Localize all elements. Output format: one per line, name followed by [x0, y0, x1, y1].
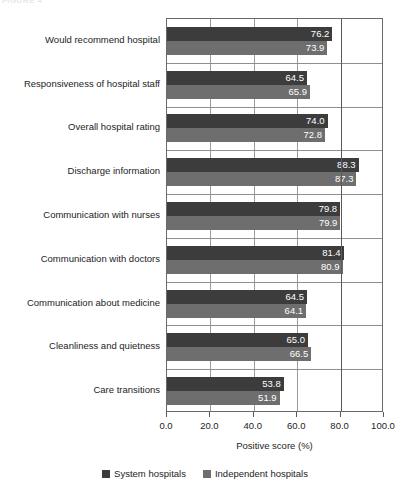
- bar-value-label: 80.9: [321, 260, 340, 274]
- bar-group: 88.387.3: [167, 150, 382, 194]
- category-separator: [167, 369, 382, 370]
- bar: 74.0: [167, 114, 328, 128]
- category-label: Discharge information: [0, 165, 160, 176]
- legend-swatch-icon: [102, 470, 110, 478]
- bar: 51.9: [167, 391, 280, 405]
- bar-value-label: 64.5: [285, 290, 304, 304]
- category-separator: [167, 63, 382, 64]
- category-separator: [167, 150, 382, 151]
- bar: 73.9: [167, 41, 327, 55]
- bar: 79.8: [167, 202, 340, 216]
- bar-value-label: 73.9: [306, 41, 325, 55]
- category-separator: [167, 325, 382, 326]
- x-axis-title: Positive score (%): [166, 440, 383, 451]
- bar-value-label: 53.8: [262, 377, 281, 391]
- bar: 79.9: [167, 216, 340, 230]
- bar-value-label: 72.8: [303, 128, 322, 142]
- x-tick-label: 20.0: [189, 420, 229, 431]
- bar-value-label: 66.5: [290, 347, 309, 361]
- bar-value-label: 76.2: [311, 27, 330, 41]
- category-separator: [167, 194, 382, 195]
- bar-group: 64.564.1: [167, 282, 382, 326]
- bar: 65.0: [167, 333, 308, 347]
- bar: 72.8: [167, 128, 325, 142]
- legend-label: Independent hospitals: [215, 468, 308, 479]
- bar: 66.5: [167, 347, 311, 361]
- bar: 65.9: [167, 85, 310, 99]
- category-separator: [167, 238, 382, 239]
- bar-value-label: 79.8: [319, 202, 338, 216]
- bar-value-label: 74.0: [306, 114, 325, 128]
- category-label: Responsiveness of hospital staff: [0, 78, 160, 89]
- bar-group: 79.879.9: [167, 194, 382, 238]
- bar: 80.9: [167, 260, 343, 274]
- category-separator: [167, 107, 382, 108]
- plot-area: 76.273.964.565.974.072.888.387.379.879.9…: [166, 18, 383, 412]
- gridline-80: [341, 19, 342, 411]
- bar-group: 76.273.9: [167, 19, 382, 63]
- bar: 64.5: [167, 71, 307, 85]
- x-tick-label: 0.0: [146, 420, 186, 431]
- bar-group: 53.851.9: [167, 369, 382, 413]
- x-tick-label: 40.0: [233, 420, 273, 431]
- bar-group: 74.072.8: [167, 107, 382, 151]
- bar: 64.5: [167, 290, 307, 304]
- bar: 81.4: [167, 246, 344, 260]
- legend-swatch-icon: [203, 470, 211, 478]
- category-label: Overall hospital rating: [0, 121, 160, 132]
- bar: 88.3: [167, 158, 359, 172]
- legend-item: System hospitals: [102, 468, 186, 479]
- category-label: Would recommend hospital: [0, 34, 160, 45]
- x-tick-mark: [383, 412, 384, 417]
- bar-value-label: 65.9: [289, 85, 308, 99]
- bar: 64.1: [167, 304, 306, 318]
- x-tick-label: 100.0: [363, 420, 403, 431]
- bar: 76.2: [167, 27, 332, 41]
- category-label: Care transitions: [0, 384, 160, 395]
- chart-legend: System hospitalsIndependent hospitals: [0, 468, 410, 479]
- bar-value-label: 51.9: [258, 391, 277, 405]
- bar-group: 81.480.9: [167, 238, 382, 282]
- x-tick-label: 80.0: [320, 420, 360, 431]
- x-tick-label: 60.0: [276, 420, 316, 431]
- category-label: Communication about medicine: [0, 297, 160, 308]
- category-separator: [167, 282, 382, 283]
- chart-figure: FIGURE 4 76.273.964.565.974.072.888.387.…: [0, 0, 410, 495]
- legend-item: Independent hospitals: [203, 468, 308, 479]
- legend-label: System hospitals: [114, 468, 186, 479]
- category-label: Communication with doctors: [0, 253, 160, 264]
- bar-value-label: 79.9: [319, 216, 338, 230]
- bar: 87.3: [167, 172, 356, 186]
- bar-value-label: 64.1: [285, 304, 304, 318]
- bar-value-label: 81.4: [322, 246, 341, 260]
- category-label: Communication with nurses: [0, 209, 160, 220]
- bar-group: 64.565.9: [167, 63, 382, 107]
- bar-group: 65.066.5: [167, 325, 382, 369]
- bar: 53.8: [167, 377, 284, 391]
- figure-caption: FIGURE 4: [2, 0, 42, 5]
- category-label: Cleanliness and quietness: [0, 340, 160, 351]
- bar-value-label: 65.0: [287, 333, 306, 347]
- bar-value-label: 87.3: [335, 172, 354, 186]
- bar-value-label: 64.5: [285, 71, 304, 85]
